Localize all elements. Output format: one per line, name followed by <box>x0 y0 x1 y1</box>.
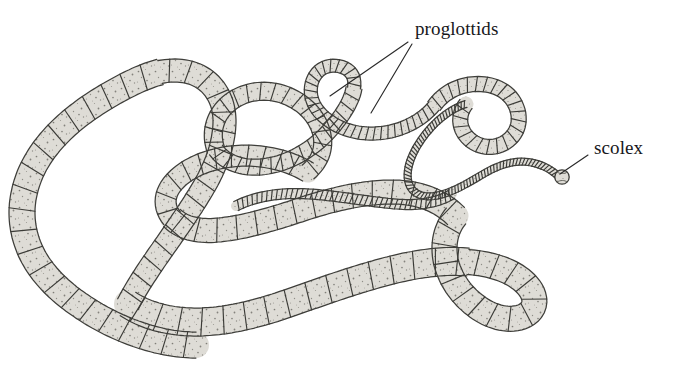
leader-proglottids-2 <box>371 44 412 113</box>
proglottid-divider <box>458 184 459 192</box>
label-scolex: scolex <box>594 138 643 157</box>
proglottid-divider <box>490 166 491 173</box>
proglottid-divider <box>252 194 253 204</box>
tapeworm-illustration <box>0 0 695 370</box>
proglottid-divider <box>458 103 459 110</box>
label-proglottids: proglottids <box>415 19 498 38</box>
proglottid-divider <box>169 59 170 82</box>
proglottid-divider <box>266 191 267 201</box>
tapeworm-figure: proglottids scolex <box>0 0 695 370</box>
proglottid-divider <box>455 186 456 193</box>
proglottid-divider <box>461 183 462 190</box>
proglottid-divider <box>271 157 272 173</box>
proglottid-divider <box>217 218 218 242</box>
proglottid-divider <box>506 160 507 167</box>
proglottid-divider <box>494 165 495 172</box>
leader-scolex <box>560 155 588 174</box>
strobila-body <box>9 42 588 358</box>
proglottid-divider <box>406 185 414 186</box>
proglottid-divider <box>247 196 248 206</box>
